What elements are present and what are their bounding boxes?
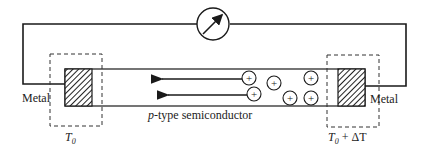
metal-contact-left <box>65 69 92 106</box>
hole-icon: + <box>267 76 281 90</box>
semiconductor-label-text: -type semiconductor <box>154 108 252 122</box>
svg-text:+: + <box>287 92 293 104</box>
metal-label-right: Metal <box>370 92 398 107</box>
hole-icon: + <box>247 87 261 101</box>
hole-icon: + <box>304 71 318 85</box>
seebeck-diagram: + + + + + + Metal Metal p-type semicondu… <box>0 0 427 153</box>
semiconductor-label: p-type semiconductor <box>148 108 252 123</box>
cold-temperature-label: T0 <box>65 130 76 146</box>
temp-delta: + ΔT <box>339 130 367 144</box>
metal-contact-right <box>338 69 365 106</box>
svg-text:+: + <box>246 72 252 84</box>
temp-symbol: T <box>328 130 335 144</box>
hole-icon: + <box>242 71 256 85</box>
metal-label-left: Metal <box>22 91 50 106</box>
temp-subscript: 0 <box>72 137 76 146</box>
svg-text:+: + <box>271 77 277 89</box>
svg-text:+: + <box>251 88 257 100</box>
semiconductor-bar <box>65 69 365 106</box>
temp-symbol: T <box>65 130 72 144</box>
hole-icon: + <box>304 91 318 105</box>
galvanometer-icon <box>197 8 229 40</box>
svg-text:+: + <box>308 72 314 84</box>
hole-icon: + <box>283 91 297 105</box>
svg-text:+: + <box>308 92 314 104</box>
hot-temperature-label: T0 + ΔT <box>328 130 367 146</box>
